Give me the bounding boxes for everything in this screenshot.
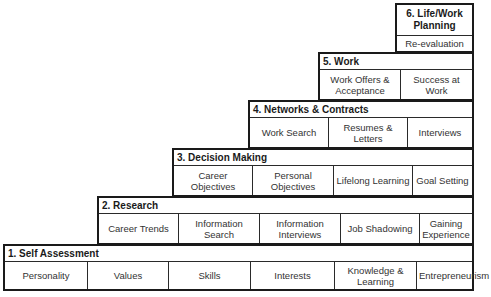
- step-items: Work Search Resumes & Letters Interviews: [250, 118, 472, 147]
- item-re-evaluation: Re-evaluation: [397, 36, 472, 51]
- step-decision-making: 3. Decision Making Career Objectives Per…: [172, 148, 474, 197]
- item-career-objectives: Career Objectives: [174, 166, 252, 195]
- step-items: Career Objectives Personal Objectives Li…: [174, 166, 472, 195]
- item-work-search: Work Search: [250, 118, 328, 147]
- item-interviews: Interviews: [407, 118, 472, 147]
- step-life-work-planning: 6. Life/Work Planning Re-evaluation: [395, 3, 474, 53]
- step-research: 2. Research Career Trends Information Se…: [97, 196, 474, 245]
- item-resumes-letters: Resumes & Letters: [328, 118, 407, 147]
- step-title: 5. Work: [320, 54, 472, 70]
- item-skills: Skills: [168, 262, 250, 289]
- item-success-at-work: Success at Work: [400, 70, 472, 99]
- step-title: 1. Self Assessment: [5, 246, 472, 262]
- step-items: Re-evaluation: [397, 36, 472, 51]
- step-title: 3. Decision Making: [174, 150, 472, 166]
- step-items: Career Trends Information Search Informa…: [99, 214, 472, 243]
- item-interests: Interests: [250, 262, 334, 289]
- item-information-interviews: Information Interviews: [259, 214, 340, 243]
- item-knowledge-learning: Knowledge & Learning: [334, 262, 416, 289]
- step-title: 2. Research: [99, 198, 472, 214]
- item-personality: Personality: [5, 262, 87, 289]
- step-items: Personality Values Skills Interests Know…: [5, 262, 472, 289]
- step-self-assessment: 1. Self Assessment Personality Values Sk…: [3, 244, 474, 291]
- step-networks-contracts: 4. Networks & Contracts Work Search Resu…: [248, 100, 474, 149]
- step-title: 4. Networks & Contracts: [250, 102, 472, 118]
- item-information-search: Information Search: [178, 214, 259, 243]
- step-title: 6. Life/Work Planning: [397, 5, 472, 36]
- step-items: Work Offers & Acceptance Success at Work: [320, 70, 472, 99]
- item-goal-setting: Goal Setting: [412, 166, 472, 195]
- item-values: Values: [87, 262, 168, 289]
- item-lifelong-learning: Lifelong Learning: [333, 166, 412, 195]
- item-career-trends: Career Trends: [99, 214, 178, 243]
- item-work-offers-acceptance: Work Offers & Acceptance: [320, 70, 400, 99]
- step-work: 5. Work Work Offers & Acceptance Success…: [318, 52, 474, 101]
- item-personal-objectives: Personal Objectives: [252, 166, 333, 195]
- item-job-shadowing: Job Shadowing: [340, 214, 419, 243]
- item-entrepreneurism: Entrepreneurism: [416, 262, 491, 289]
- item-gaining-experience: Gaining Experience: [419, 214, 472, 243]
